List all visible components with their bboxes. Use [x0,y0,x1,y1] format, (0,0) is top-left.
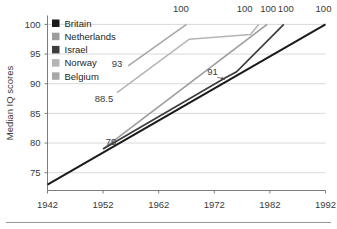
y-tick-label: 95 [30,48,41,59]
data-label: 91 [207,66,218,77]
series-line-belgium [128,24,186,66]
y-axis-title: Median IQ scores [4,66,15,141]
data-label: 93 [112,58,123,69]
legend-label-israel: Israel [65,44,88,55]
data-label: 100 [278,3,294,14]
y-tick-label: 100 [25,19,41,30]
data-label: 100 [237,3,253,14]
x-tick-label: 1962 [148,199,169,210]
legend-label-belgium: Belgium [65,71,99,82]
series-line-israel [103,24,284,149]
legend-swatch-belgium [52,72,60,80]
y-tick-label: 80 [30,137,41,148]
y-tick-label: 85 [30,108,41,119]
y-tick-labels-group: 7580859095100 [25,19,41,178]
legend-label-britain: Britain [65,18,92,29]
series-lines-group [48,24,326,184]
legend-swatch-norway [52,59,60,67]
y-axis-title-text: Median IQ scores [4,66,15,141]
data-label: 100 [260,3,276,14]
y-tick-label: 75 [30,167,41,178]
data-labels-group: 100791009110088.510093100 [95,3,332,147]
legend-swatch-britain [52,20,60,28]
x-tick-label: 1992 [315,199,336,210]
data-label: 100 [173,3,189,14]
line-chart: 7580859095100 194219521962197219821992 1… [0,0,337,229]
legend-label-netherlands: Netherlands [65,31,116,42]
x-tick-label: 1982 [259,199,280,210]
legend-swatch-netherlands [52,33,60,41]
legend-swatch-israel [52,46,60,54]
data-label: 79 [106,136,117,147]
chart-legend: BritainNetherlandsIsraelNorwayBelgium [52,18,116,82]
legend-label-norway: Norway [65,57,97,68]
data-label: 100 [316,3,332,14]
series-line-britain [48,24,326,184]
y-tick-label: 90 [30,78,41,89]
x-tick-label: 1972 [204,199,225,210]
x-tick-labels-group: 194219521962197219821992 [37,199,336,210]
data-label: 88.5 [95,93,114,104]
chart-container: 7580859095100 194219521962197219821992 1… [0,0,337,229]
x-tick-label: 1942 [37,199,58,210]
x-tick-label: 1952 [93,199,114,210]
gridlines-group [48,24,326,172]
